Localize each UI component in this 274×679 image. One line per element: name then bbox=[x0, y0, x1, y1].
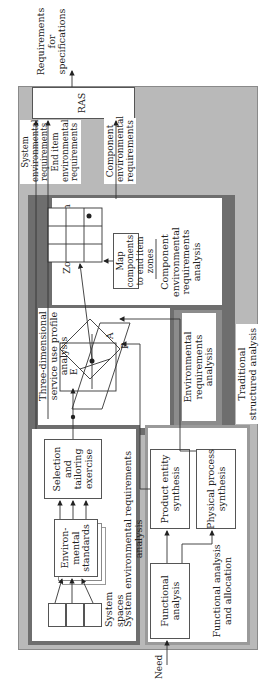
svg-text:P: P bbox=[120, 343, 130, 349]
svg-text:A: A bbox=[105, 332, 115, 340]
svg-text:E: E bbox=[69, 368, 79, 375]
rotated-diagram: RAS System environmental requirements En… bbox=[0, 0, 274, 679]
connector-lines: E A P bbox=[0, 0, 274, 679]
